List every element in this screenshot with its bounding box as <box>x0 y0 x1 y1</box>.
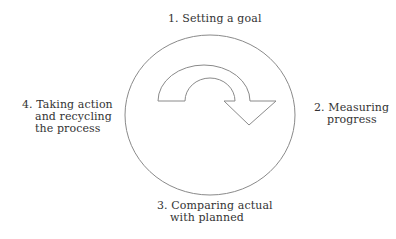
clockwise-arrow-icon <box>158 65 276 125</box>
step-2-line-2: progress <box>314 114 389 126</box>
step-1-line-1: 1. Setting a goal <box>168 13 262 25</box>
step-4-label: 4. Taking action and recycling the proce… <box>22 99 113 135</box>
step-1-label: 1. Setting a goal <box>168 13 262 25</box>
step-2-label: 2. Measuring progress <box>314 102 389 126</box>
step-3-line-2: with planned <box>157 212 273 224</box>
cycle-circle <box>125 35 295 195</box>
step-3-label: 3. Comparing actual with planned <box>157 200 273 224</box>
step-4-line-3: the process <box>22 123 113 135</box>
